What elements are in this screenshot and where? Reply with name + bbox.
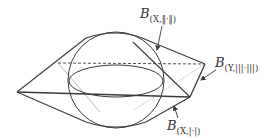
polytope-top-edge (86, 33, 205, 64)
polytope-inner-diagonal (133, 42, 190, 97)
hidden-edge-left (58, 63, 100, 112)
label-ball-x-norm: B(X,‖·‖) (139, 6, 176, 25)
norm-balls-diagram: B(X,‖·‖) B(Y,|||·|||) B(X,|·|) (0, 0, 271, 138)
arrow-ball-x-abs (174, 106, 178, 118)
label-ball-y-norm: B(Y,|||·|||) (214, 55, 258, 74)
arrow-ball-y-norm (201, 70, 216, 80)
equator-ellipse (69, 65, 163, 97)
label-ball-x-abs: B(X,|·|) (166, 118, 200, 137)
polytope-bottom-edge (17, 92, 190, 127)
sphere-outline (68, 32, 164, 128)
dashed-back-edge (58, 63, 205, 64)
